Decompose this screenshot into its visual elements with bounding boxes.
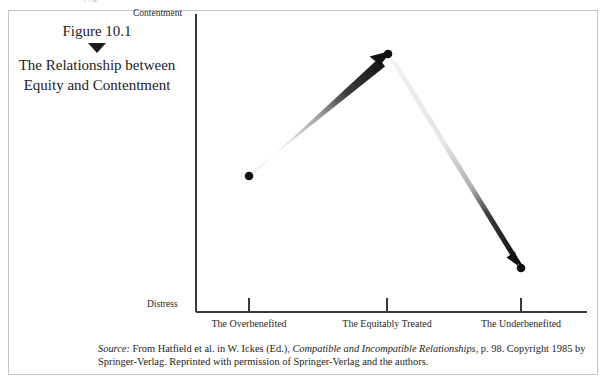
y-axis-bottom-label: Distress [147,299,178,309]
source-label: Source: [98,343,130,354]
chart-plot-area: Contentment Distress The Overbenefited T… [0,0,606,384]
figure-page: 224 Figure 10.1 The Relationship between… [0,0,606,384]
source-text-before: From Hatfield et al. in W. Ickes (Ed.), [130,343,292,354]
x-label-equitably-treated: The Equitably Treated [342,318,431,329]
x-label-overbenefited: The Overbenefited [211,318,286,329]
arrow-up-segment [247,51,393,181]
data-point-equitably-treated [384,50,393,59]
data-point-underbenefited [517,264,526,273]
arrow-down-segment [390,59,529,274]
data-point-overbenefited [245,172,254,181]
source-note: Source: From Hatfield et al. in W. Ickes… [98,342,590,369]
source-work-title: Compatible and Incompatible Relationship… [292,343,475,354]
y-axis-top-label: Contentment [133,8,182,18]
x-label-underbenefited: The Underbenefited [481,318,561,329]
